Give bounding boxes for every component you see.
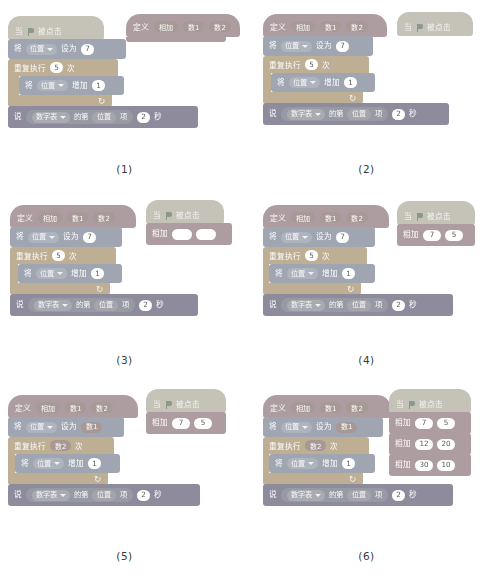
- repeat-count-input[interactable]: 5: [52, 250, 65, 261]
- repeat-count-param-pill[interactable]: 数2: [305, 440, 326, 451]
- position-variable-pill[interactable]: 位置: [347, 490, 371, 501]
- param-1-pill[interactable]: 数1: [320, 212, 341, 223]
- list-dropdown[interactable]: 数字表: [32, 112, 70, 123]
- position-dropdown[interactable]: 位置: [281, 41, 312, 52]
- call-arg-1-input[interactable]: 30: [415, 460, 433, 471]
- position-dropdown[interactable]: 位置: [281, 232, 312, 243]
- call-add-block[interactable]: 相加 7 5: [146, 412, 226, 434]
- call-arg-1-input[interactable]: 7: [415, 418, 433, 429]
- repeat-inner-slot[interactable]: 将 位置 增加 1: [19, 76, 124, 95]
- set-position-block[interactable]: 将 位置 设为 7: [263, 227, 375, 247]
- param-2-pill[interactable]: 数2: [346, 212, 367, 223]
- param-1-pill[interactable]: 数1: [65, 402, 86, 413]
- set-position-block[interactable]: 将 位置 设为 数1: [8, 417, 124, 437]
- change-value-input[interactable]: 1: [344, 77, 357, 88]
- position-dropdown[interactable]: 位置: [289, 77, 320, 88]
- change-value-input[interactable]: 1: [92, 80, 105, 91]
- call-arg-2-input[interactable]: 5: [437, 418, 455, 429]
- set-position-block[interactable]: 将 位置 设为 数1: [263, 417, 383, 437]
- panel-1-define-block[interactable]: 定义 相加 数1 数2: [126, 14, 240, 42]
- say-seconds-input[interactable]: 2: [392, 490, 405, 501]
- position-variable-pill[interactable]: 位置: [347, 300, 371, 311]
- param-2-pill[interactable]: 数2: [346, 402, 367, 413]
- set-value-input[interactable]: 7: [336, 41, 349, 52]
- position-dropdown[interactable]: 位置: [33, 458, 64, 469]
- when-flag-clicked-hat[interactable]: 当 被点击: [397, 12, 473, 36]
- repeat-header[interactable]: 重复执行 5 次: [263, 56, 369, 73]
- repeat-header[interactable]: 重复执行 数2 次: [263, 437, 369, 454]
- repeat-count-input[interactable]: 5: [305, 250, 318, 261]
- change-value-input[interactable]: 1: [342, 458, 355, 469]
- call-arg-2-input[interactable]: [196, 229, 216, 240]
- change-position-block[interactable]: 将 位置 增加 1: [269, 454, 375, 473]
- change-value-input[interactable]: 1: [342, 268, 355, 279]
- say-seconds-input[interactable]: 2: [137, 112, 150, 123]
- define-hat[interactable]: 定义 相加 数1 数2: [126, 14, 240, 37]
- call-arg-1-input[interactable]: 7: [423, 230, 441, 241]
- position-dropdown[interactable]: 位置: [26, 44, 57, 55]
- param-2-pill[interactable]: 数2: [346, 21, 367, 32]
- repeat-count-input[interactable]: 5: [305, 59, 318, 70]
- define-hat[interactable]: 定义 相加 数1 数2: [8, 395, 138, 418]
- call-arg-1-input[interactable]: [172, 229, 192, 240]
- item-of-list-reporter[interactable]: 数字表 的第 位置 项: [281, 107, 388, 121]
- set-position-block[interactable]: 将 位置 设为 7: [263, 36, 373, 56]
- param-2-pill[interactable]: 数2: [91, 402, 112, 413]
- call-add-block[interactable]: 相加: [146, 223, 232, 245]
- change-position-block[interactable]: 将 位置 增加 1: [269, 264, 375, 283]
- repeat-inner-slot[interactable]: 将 位置 增加 1: [18, 264, 122, 283]
- repeat-block[interactable]: 重复执行 5 次 将 位置 增加: [10, 247, 122, 295]
- repeat-count-param-pill[interactable]: 数2: [50, 440, 71, 451]
- change-position-block[interactable]: 将 位置 增加 1: [15, 454, 120, 473]
- item-of-list-reporter[interactable]: 数字表 的第 位置 项: [281, 488, 388, 502]
- call-arg-1-input[interactable]: 12: [415, 439, 433, 450]
- repeat-inner-slot[interactable]: 将 位置 增加 1: [269, 264, 375, 283]
- call-add-block[interactable]: 相加 7 5: [389, 412, 471, 434]
- say-for-seconds-block[interactable]: 说 数字表 的第 位置 项 2 秒: [263, 103, 449, 125]
- repeat-block[interactable]: 重复执行 5 次 将 位置 增加: [263, 247, 375, 295]
- change-value-input[interactable]: 1: [91, 268, 104, 279]
- list-dropdown[interactable]: 数字表: [287, 300, 325, 311]
- when-flag-clicked-hat[interactable]: 当 被点击: [146, 389, 226, 413]
- say-seconds-input[interactable]: 2: [392, 109, 405, 120]
- repeat-header[interactable]: 重复执行 5 次: [10, 247, 116, 264]
- call-arg-2-input[interactable]: 10: [437, 460, 455, 471]
- say-for-seconds-block[interactable]: 说 数字表 的第 位置 项 2 秒: [263, 484, 453, 506]
- say-for-seconds-block[interactable]: 说 数字表 的第 位置 项 2 秒: [10, 294, 198, 316]
- panel-2-flag-hat[interactable]: 当 被点击: [397, 12, 473, 36]
- say-for-seconds-block[interactable]: 说 数字表 的第 位置 项 2 秒: [263, 294, 453, 316]
- repeat-inner-slot[interactable]: 将 位置 增加 1: [15, 454, 120, 473]
- position-dropdown[interactable]: 位置: [36, 268, 67, 279]
- panel-4-call-script[interactable]: 当 被点击 相加 7 5: [397, 201, 475, 246]
- call-add-block[interactable]: 相加 12 20: [389, 433, 471, 455]
- position-dropdown[interactable]: 位置: [287, 458, 318, 469]
- change-value-input[interactable]: 1: [88, 458, 101, 469]
- call-arg-2-input[interactable]: 5: [194, 418, 212, 429]
- say-seconds-input[interactable]: 2: [139, 300, 152, 311]
- when-flag-clicked-hat[interactable]: 当 被点击: [146, 200, 224, 224]
- param-2-pill[interactable]: 数2: [93, 212, 114, 223]
- list-dropdown[interactable]: 数字表: [287, 109, 325, 120]
- param-1-pill[interactable]: 数1: [183, 21, 204, 32]
- change-position-block[interactable]: 将 位置 增加 1: [271, 73, 375, 92]
- item-of-list-reporter[interactable]: 数字表 的第 位置 项: [281, 298, 388, 312]
- list-dropdown[interactable]: 数字表: [34, 300, 72, 311]
- repeat-header[interactable]: 重复执行 5 次: [8, 59, 118, 76]
- set-value-input[interactable]: 7: [81, 44, 94, 55]
- position-variable-pill[interactable]: 位置: [92, 490, 116, 501]
- param-1-pill[interactable]: 数1: [67, 212, 88, 223]
- list-dropdown[interactable]: 数字表: [287, 490, 325, 501]
- list-dropdown[interactable]: 数字表: [32, 490, 70, 501]
- call-add-block[interactable]: 相加 30 10: [389, 454, 471, 476]
- change-position-block[interactable]: 将 位置 增加 1: [18, 264, 122, 283]
- repeat-block[interactable]: 重复执行 5 次 将 位置 增加: [8, 59, 124, 107]
- call-add-block[interactable]: 相加 7 5: [397, 224, 475, 246]
- position-variable-pill[interactable]: 位置: [92, 112, 116, 123]
- call-arg-2-input[interactable]: 20: [437, 439, 455, 450]
- repeat-count-input[interactable]: 5: [50, 62, 63, 73]
- repeat-block[interactable]: 重复执行 5 次 将 位置 增加: [263, 56, 375, 104]
- define-hat[interactable]: 定义 相加 数1 数2: [10, 205, 136, 228]
- panel-6-call-script[interactable]: 当 被点击 相加 7 5 相加 12 20 相加 30 10: [389, 389, 471, 476]
- panel-3-call-script[interactable]: 当 被点击 相加: [146, 200, 232, 245]
- define-hat[interactable]: 定义 相加 数1 数2: [263, 205, 389, 228]
